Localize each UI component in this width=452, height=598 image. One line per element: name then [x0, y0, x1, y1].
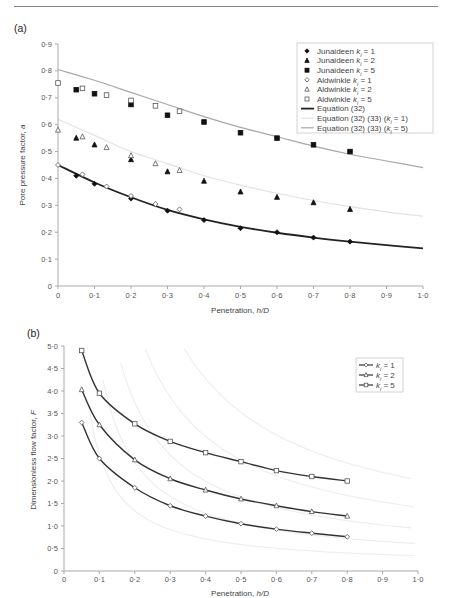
square-marker [129, 98, 134, 103]
x-tick-label-a: 0·4 [199, 291, 210, 300]
triangle-marker [202, 178, 207, 183]
square-marker [133, 422, 137, 426]
y-tick-label-b: 5·0 [47, 342, 58, 351]
x-tick-label-b: 0·2 [129, 575, 140, 584]
y-tick-label-b: 2·5 [47, 454, 58, 463]
x-tick-label-b: 0·7 [306, 575, 317, 584]
x-tick-label-a: 0·7 [308, 291, 319, 300]
y-tick-label-a: 0 [48, 282, 52, 291]
y-tick-label-b: 4·5 [47, 364, 58, 373]
y-tick-label-a: 0·5 [41, 147, 52, 156]
x-tick-label-b: 0·8 [342, 575, 353, 584]
square-marker [92, 91, 97, 96]
y-tick-label-a: 0·7 [41, 93, 52, 102]
square-marker [345, 479, 349, 483]
triangle-marker [74, 135, 79, 140]
diamond-marker [79, 420, 84, 425]
x-tick-label-b: 0·9 [377, 575, 388, 584]
diamond-marker [239, 521, 244, 526]
square-marker [238, 130, 243, 135]
square-marker [80, 348, 84, 352]
diamond-marker [311, 235, 316, 240]
square-marker [239, 459, 243, 463]
chart-b: (b) 00·10·20·30·40·50·60·70·80·91·000·51… [27, 327, 423, 598]
square-marker [311, 143, 316, 148]
square-marker [305, 68, 309, 72]
square-marker [165, 113, 170, 118]
triangle-marker [153, 161, 158, 166]
y-tick-label-b: 4·0 [47, 387, 58, 396]
square-marker [310, 474, 314, 478]
square-marker [274, 468, 278, 472]
y-tick-label-a: 0·2 [41, 228, 52, 237]
triangle-marker [56, 127, 61, 132]
square-marker [168, 439, 172, 443]
square-marker [202, 120, 207, 125]
panel-label-b: (b) [27, 327, 40, 339]
x-tick-label-a: 0·9 [381, 291, 392, 300]
y-tick-label-b: 2·0 [47, 477, 58, 486]
x-tick-label-b: 0·6 [271, 575, 282, 584]
panel-label-a: (a) [14, 22, 27, 34]
square-marker [104, 93, 109, 98]
x-tick-label-a: 0·1 [89, 291, 100, 300]
square-marker [364, 383, 368, 387]
square-marker [80, 86, 85, 91]
y-axis-title-a: Pore pressure factor, a [18, 124, 27, 205]
y-tick-label-a: 0·1 [41, 255, 52, 264]
square-marker [97, 391, 101, 395]
y-tick-label-b: 1·5 [47, 499, 58, 508]
diamond-marker [275, 230, 280, 235]
x-axis-title-b-text: Penetration, h/D [211, 589, 269, 598]
y-tick-label-a: 0·8 [41, 66, 52, 75]
y-tick-label-a: 0·6 [41, 120, 52, 129]
y-tick-label-b: 3·0 [47, 432, 58, 441]
triangle-marker [165, 169, 170, 174]
y-tick-label-b: 1·0 [47, 522, 58, 531]
x-tick-label-a: 1·0 [418, 291, 429, 300]
x-tick-label-b: 0·5 [236, 575, 247, 584]
y-tick-label-b: 0·5 [47, 544, 58, 553]
x-tick-label-b: 0·1 [94, 575, 105, 584]
figure-canvas: (a) 00·10·20·30·40·50·60·70·80·91·000·10… [0, 0, 452, 598]
series-line [82, 351, 348, 482]
triangle-marker [79, 387, 84, 392]
x-tick-label-a: 0·3 [162, 291, 173, 300]
x-tick-label-b: 1·0 [413, 575, 424, 584]
x-tick-label-a: 0·5 [235, 291, 246, 300]
square-marker [74, 87, 79, 92]
diamond-marker [177, 207, 182, 212]
triangle-marker [129, 153, 134, 158]
square-marker [203, 450, 207, 454]
background-contour-curve [103, 380, 415, 544]
square-marker [275, 136, 280, 141]
triangle-marker [275, 194, 280, 199]
square-marker [177, 109, 182, 114]
y-tick-label-b: 3·5 [47, 409, 58, 418]
square-marker [348, 149, 353, 154]
x-tick-label-a: 0·2 [126, 291, 137, 300]
x-tick-label-a: 0 [56, 291, 60, 300]
x-tick-label-b: 0·4 [200, 575, 211, 584]
background-contour-curve [89, 406, 415, 555]
y-axis-title-b: Dimensionless flow factor, F [29, 409, 38, 510]
equation-curve [58, 165, 423, 248]
triangle-marker [104, 145, 109, 150]
y-tick-label-a: 0·4 [41, 174, 52, 183]
x-tick-label-b: 0 [62, 575, 66, 584]
triangle-marker [238, 189, 243, 194]
y-tick-label-a: 0·3 [41, 201, 52, 210]
diamond-marker [168, 503, 173, 508]
x-axis-title-a-text: Penetration, h/D [211, 306, 269, 315]
legend-label: Equation (32) [317, 104, 365, 113]
square-marker [153, 104, 158, 109]
triangle-marker [92, 142, 97, 147]
square-marker [56, 81, 61, 86]
y-tick-label-a: 0·9 [41, 40, 52, 49]
legend-a: Junaideen ki = 1Junaideen ki = 2Junaidee… [297, 43, 433, 135]
triangle-marker [80, 134, 85, 139]
legend-b: ki = 1ki = 2ki = 5 [356, 358, 403, 392]
square-marker [305, 97, 309, 101]
x-tick-label-b: 0·3 [165, 575, 176, 584]
diamond-marker [348, 239, 353, 244]
